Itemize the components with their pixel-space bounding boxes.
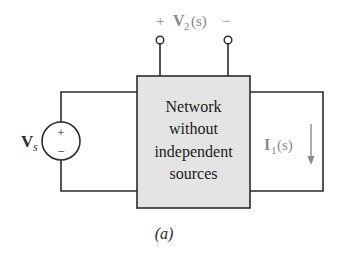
network-line-4: sources	[170, 165, 218, 182]
v2-plus-sign: +	[156, 13, 164, 29]
figure-caption: (a)	[155, 225, 174, 243]
source-label: V s	[21, 132, 38, 154]
v2-label-sub: 2	[184, 20, 190, 32]
terminal-minus	[224, 36, 232, 44]
network-line-1: Network	[166, 98, 222, 115]
current-arrow-icon	[308, 124, 315, 165]
v2-label-arg: (s)	[191, 13, 207, 30]
network-line-3: independent	[154, 143, 233, 161]
voltage-source: + −	[42, 122, 80, 160]
v2-minus-sign: −	[222, 13, 230, 29]
network-box: Network without independent sources	[137, 76, 250, 208]
output-terminals	[156, 36, 232, 76]
output-current-label: I 1 (s)	[264, 136, 293, 156]
source-label-sub: s	[33, 140, 38, 154]
i1-label-main: I	[264, 136, 270, 153]
terminal-plus	[156, 36, 164, 44]
output-voltage-label: + V 2 (s) −	[156, 12, 230, 32]
circuit-diagram: + − V s + V 2 (s) − Network without inde…	[0, 0, 344, 263]
i1-label-sub: 1	[271, 144, 277, 156]
source-plus-sign: +	[57, 125, 64, 140]
i1-label-arg: (s)	[277, 137, 293, 154]
source-minus-sign: −	[57, 144, 64, 159]
network-line-2: without	[169, 120, 218, 137]
